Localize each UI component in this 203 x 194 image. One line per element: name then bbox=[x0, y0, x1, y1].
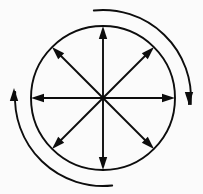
arrow-northeast-shaft bbox=[103, 55, 146, 98]
arrow-north-head bbox=[99, 26, 107, 39]
arc-clockwise-right bbox=[94, 10, 191, 104]
arrow-northwest-shaft bbox=[60, 55, 103, 98]
arrow-southwest-shaft bbox=[60, 98, 103, 141]
figure-canvas bbox=[0, 0, 203, 194]
arrow-south-head bbox=[99, 157, 107, 170]
radial-arrow-diagram bbox=[0, 0, 203, 194]
radial-arrows-group bbox=[31, 26, 175, 170]
arrow-west-head bbox=[31, 94, 44, 102]
arrow-east-head bbox=[162, 94, 175, 102]
arrow-southeast-shaft bbox=[103, 98, 146, 141]
arc-counterclockwise-left bbox=[15, 92, 112, 186]
